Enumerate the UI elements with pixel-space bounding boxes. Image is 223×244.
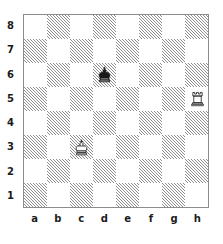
square-b2[interactable]	[47, 159, 70, 183]
square-g4[interactable]	[162, 111, 185, 135]
square-c7[interactable]	[70, 39, 93, 63]
square-e5[interactable]	[116, 87, 139, 111]
square-b1[interactable]	[47, 183, 70, 207]
square-h1[interactable]	[185, 183, 208, 207]
piece-black-king-d6[interactable]	[93, 63, 116, 87]
file-label-a: a	[23, 209, 46, 229]
square-h7[interactable]	[185, 39, 208, 63]
square-h6[interactable]	[185, 63, 208, 87]
square-g6[interactable]	[162, 63, 185, 87]
square-e8[interactable]	[116, 15, 139, 39]
file-label-e: e	[116, 209, 139, 229]
square-h2[interactable]	[185, 159, 208, 183]
square-g3[interactable]	[162, 135, 185, 159]
square-b4[interactable]	[47, 111, 70, 135]
file-label-g: g	[163, 209, 186, 229]
square-d2[interactable]	[93, 159, 116, 183]
square-a4[interactable]	[24, 111, 47, 135]
chess-board[interactable]	[23, 14, 209, 208]
square-e4[interactable]	[116, 111, 139, 135]
square-c2[interactable]	[70, 159, 93, 183]
square-b5[interactable]	[47, 87, 70, 111]
square-d5[interactable]	[93, 87, 116, 111]
square-d4[interactable]	[93, 111, 116, 135]
rank-label-5: 5	[0, 87, 21, 111]
square-h8[interactable]	[185, 15, 208, 39]
square-g7[interactable]	[162, 39, 185, 63]
square-f2[interactable]	[139, 159, 162, 183]
rank-label-6: 6	[0, 63, 21, 87]
file-labels: a b c d e f g h	[23, 209, 209, 229]
chess-diagram: 8 7 6 5 4 3 2 1	[0, 0, 223, 244]
square-g1[interactable]	[162, 183, 185, 207]
square-f3[interactable]	[139, 135, 162, 159]
square-c6[interactable]	[70, 63, 93, 87]
square-g2[interactable]	[162, 159, 185, 183]
square-c4[interactable]	[70, 111, 93, 135]
square-a5[interactable]	[24, 87, 47, 111]
file-label-f: f	[139, 209, 162, 229]
rank-label-7: 7	[0, 38, 21, 62]
file-label-d: d	[93, 209, 116, 229]
square-e1[interactable]	[116, 183, 139, 207]
rank-label-3: 3	[0, 135, 21, 159]
square-f6[interactable]	[139, 63, 162, 87]
piece-white-rook-h5[interactable]	[186, 87, 209, 111]
square-e2[interactable]	[116, 159, 139, 183]
square-d7[interactable]	[93, 39, 116, 63]
square-f8[interactable]	[139, 15, 162, 39]
square-b3[interactable]	[47, 135, 70, 159]
black-king-icon	[94, 64, 115, 85]
square-e6[interactable]	[116, 63, 139, 87]
square-f4[interactable]	[139, 111, 162, 135]
square-f5[interactable]	[139, 87, 162, 111]
square-c8[interactable]	[70, 15, 93, 39]
square-d8[interactable]	[93, 15, 116, 39]
file-label-h: h	[186, 209, 209, 229]
square-a1[interactable]	[24, 183, 47, 207]
square-a8[interactable]	[24, 15, 47, 39]
square-g5[interactable]	[162, 87, 185, 111]
white-king-icon	[71, 137, 92, 158]
rank-label-1: 1	[0, 184, 21, 208]
square-e3[interactable]	[116, 135, 139, 159]
square-a7[interactable]	[24, 39, 47, 63]
rank-label-4: 4	[0, 111, 21, 135]
square-h3[interactable]	[185, 135, 208, 159]
square-a6[interactable]	[24, 63, 47, 87]
white-rook-icon	[187, 88, 208, 109]
square-b7[interactable]	[47, 39, 70, 63]
file-label-b: b	[46, 209, 69, 229]
square-b8[interactable]	[47, 15, 70, 39]
square-g8[interactable]	[162, 15, 185, 39]
chess-board-wrapper	[23, 14, 209, 208]
piece-white-king-c3[interactable]	[70, 135, 93, 159]
square-f1[interactable]	[139, 183, 162, 207]
rank-label-8: 8	[0, 14, 21, 38]
square-a3[interactable]	[24, 135, 47, 159]
square-b6[interactable]	[47, 63, 70, 87]
file-label-c: c	[70, 209, 93, 229]
square-d1[interactable]	[93, 183, 116, 207]
rank-label-2: 2	[0, 160, 21, 184]
square-d3[interactable]	[93, 135, 116, 159]
square-e7[interactable]	[116, 39, 139, 63]
square-h4[interactable]	[185, 111, 208, 135]
square-a2[interactable]	[24, 159, 47, 183]
square-c1[interactable]	[70, 183, 93, 207]
square-c5[interactable]	[70, 87, 93, 111]
rank-labels: 8 7 6 5 4 3 2 1	[0, 14, 21, 208]
square-f7[interactable]	[139, 39, 162, 63]
